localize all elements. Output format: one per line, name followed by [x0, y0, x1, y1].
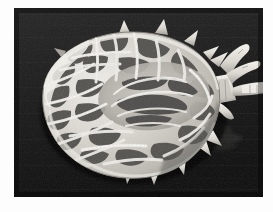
- specimen-photo-canvas: [14, 8, 263, 197]
- photograph-page: [0, 0, 273, 212]
- film-grain-overlay: [14, 8, 263, 197]
- photographic-plate: [14, 8, 263, 197]
